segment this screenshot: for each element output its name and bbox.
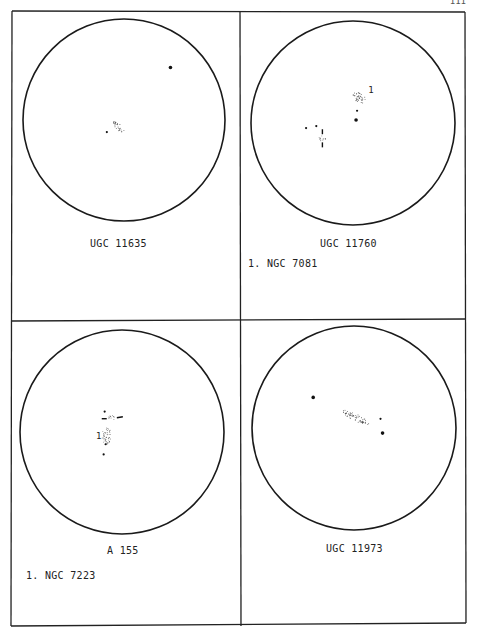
star-marker bbox=[354, 118, 358, 122]
galaxy-stipple bbox=[114, 124, 115, 125]
galaxy-stipple bbox=[109, 441, 110, 442]
galaxy-stipple bbox=[109, 431, 110, 432]
galaxy-stipple bbox=[103, 433, 104, 434]
galaxy-stipple bbox=[355, 419, 356, 420]
galaxy-stipple bbox=[104, 439, 105, 440]
panel-title: A 155 bbox=[107, 545, 139, 556]
galaxy-id-label: 1 bbox=[96, 431, 101, 441]
galaxy-stipple bbox=[109, 432, 110, 433]
galaxy-stipple bbox=[361, 102, 362, 103]
galaxy-stipple bbox=[104, 436, 105, 437]
galaxy-stipple bbox=[359, 421, 360, 422]
galaxy-stipple bbox=[112, 415, 113, 416]
galaxy-stipple bbox=[355, 420, 356, 421]
galaxy-stipple bbox=[110, 430, 111, 431]
galaxy-stipple bbox=[345, 414, 346, 415]
galaxy-stipple bbox=[362, 97, 363, 98]
galaxy-stipple bbox=[323, 139, 324, 140]
field-circle bbox=[251, 21, 455, 225]
frame-bottom-edge bbox=[11, 623, 466, 626]
galaxy-stipple bbox=[361, 417, 362, 418]
field-circle bbox=[252, 326, 456, 530]
galaxy-stipple bbox=[120, 128, 121, 129]
star-marker bbox=[103, 453, 105, 455]
galaxy-stipple bbox=[362, 102, 363, 103]
galaxy-stipple bbox=[107, 430, 108, 431]
galaxy-stipple bbox=[114, 417, 115, 418]
galaxy-stipple bbox=[103, 434, 104, 435]
panel-note: 1. NGC 7223 bbox=[26, 570, 96, 581]
galaxy-stipple bbox=[355, 417, 356, 418]
galaxy-stipple bbox=[108, 417, 109, 418]
field-ugc-11973 bbox=[252, 326, 456, 530]
galaxy-stipple bbox=[102, 431, 103, 432]
galaxy-stipple bbox=[345, 413, 346, 414]
galaxy-stipple bbox=[116, 128, 117, 129]
field-circle bbox=[23, 19, 225, 221]
galaxy-marker bbox=[319, 135, 326, 141]
panel-title: UGC 11973 bbox=[326, 543, 383, 554]
galaxy-stipple bbox=[364, 97, 365, 98]
galaxy-marker bbox=[351, 90, 367, 105]
galaxy-stipple bbox=[106, 437, 107, 438]
galaxy-stipple bbox=[361, 99, 362, 100]
galaxy-stipple bbox=[115, 124, 116, 125]
galaxy-stipple bbox=[368, 423, 369, 424]
star-marker bbox=[379, 418, 381, 420]
galaxy-stipple bbox=[362, 419, 363, 420]
galaxy-stipple bbox=[357, 414, 358, 415]
galaxy-stipple bbox=[347, 411, 348, 412]
galaxy-stipple bbox=[107, 432, 108, 433]
galaxy-stipple bbox=[319, 137, 320, 138]
galaxy-stipple bbox=[320, 138, 321, 139]
galaxy-stipple bbox=[108, 429, 109, 430]
galaxy-marker bbox=[108, 415, 114, 420]
galaxy-stipple bbox=[105, 432, 106, 433]
panel-note: 1. NGC 7081 bbox=[248, 258, 318, 269]
galaxy-stipple bbox=[103, 436, 104, 437]
galaxy-stipple bbox=[352, 412, 353, 413]
galaxy-stipple bbox=[108, 438, 109, 439]
galaxy-stipple bbox=[358, 416, 359, 417]
field-ugc-11635 bbox=[23, 19, 225, 221]
frame-right-edge bbox=[465, 12, 466, 623]
galaxy-stipple bbox=[110, 439, 111, 440]
galaxy-stipple bbox=[362, 99, 363, 100]
galaxy-stipple bbox=[107, 428, 108, 429]
galaxy-stipple bbox=[321, 135, 322, 136]
galaxy-stipple bbox=[102, 438, 103, 439]
galaxy-stipple bbox=[108, 442, 109, 443]
galaxy-stipple bbox=[356, 93, 357, 94]
galaxy-stipple bbox=[111, 418, 112, 419]
galaxy-stipple bbox=[103, 437, 104, 438]
galaxy-stipple bbox=[325, 139, 326, 140]
galaxy-stipple bbox=[103, 442, 104, 443]
galaxy-marker bbox=[111, 119, 125, 133]
galaxy-stipple bbox=[109, 437, 110, 438]
galaxy-stipple bbox=[104, 432, 105, 433]
galaxy-stipple bbox=[106, 441, 107, 442]
star-marker bbox=[105, 443, 107, 445]
galaxy-stipple bbox=[114, 126, 115, 127]
galaxy-stipple bbox=[110, 416, 111, 417]
galaxy-stipple bbox=[320, 140, 321, 141]
galaxy-stipple bbox=[361, 94, 362, 95]
star-marker bbox=[311, 396, 315, 400]
galaxy-stipple bbox=[325, 138, 326, 139]
galaxy-stipple bbox=[104, 435, 105, 436]
star-marker bbox=[356, 110, 358, 112]
galaxy-stipple bbox=[110, 434, 111, 435]
galaxy-stipple bbox=[106, 429, 107, 430]
galaxy-marker bbox=[102, 428, 111, 445]
galaxy-stipple bbox=[367, 424, 368, 425]
galaxy-stipple bbox=[104, 438, 105, 439]
star-marker bbox=[104, 411, 106, 413]
frame-left-edge bbox=[11, 11, 12, 626]
galaxy-stipple bbox=[107, 443, 108, 444]
field-ugc-11760: 1 bbox=[251, 21, 455, 225]
galaxy-stipple bbox=[358, 422, 359, 423]
frame-vertical-divider bbox=[240, 11, 241, 626]
galaxy-stipple bbox=[107, 434, 108, 435]
field-a-155: 1 bbox=[20, 330, 224, 534]
galaxy-stipple bbox=[360, 420, 361, 421]
